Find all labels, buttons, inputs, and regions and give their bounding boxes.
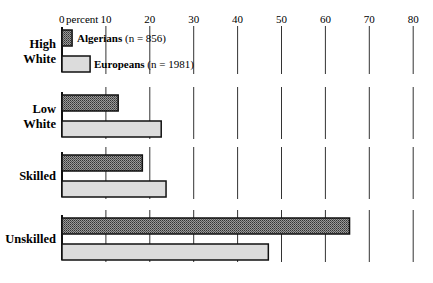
bar-europeans (62, 244, 268, 260)
bar-algerians (62, 155, 142, 171)
x-tick-label: 60 (320, 13, 332, 25)
x-tick-labels: 10203040506070800percent (59, 13, 419, 25)
x-tick-label-zero: 0 (59, 13, 65, 25)
x-tick-label: 40 (232, 13, 244, 25)
bar-chart: 10203040506070800percent HighWhiteLowWhi… (0, 0, 433, 283)
legend: Algerians (n = 856)Europeans (n = 1981) (77, 32, 194, 71)
category-label: Unskilled (5, 232, 56, 246)
x-tick-label: 70 (364, 13, 376, 25)
x-tick-label: 30 (188, 13, 200, 25)
bar-europeans (62, 121, 161, 137)
category-label: Skilled (19, 169, 56, 183)
legend-europeans: Europeans (n = 1981) (94, 58, 194, 71)
bar-europeans (62, 181, 166, 197)
bar-europeans (62, 56, 90, 72)
bar-algerians (62, 218, 350, 234)
x-tick-label: 50 (276, 13, 288, 25)
category-label: High (30, 37, 56, 51)
bar-algerians (62, 95, 118, 111)
category-label: Low (32, 102, 56, 116)
x-tick-label: 20 (144, 13, 156, 25)
x-tick-label: 10 (100, 13, 112, 25)
bar-algerians (62, 30, 72, 46)
category-labels: HighWhiteLowWhiteSkilledUnskilled (5, 37, 56, 247)
legend-algerians: Algerians (n = 856) (77, 32, 166, 45)
category-label: White (23, 52, 56, 66)
category-label: White (23, 117, 56, 131)
x-axis-unit-label: percent (66, 13, 98, 25)
x-tick-label: 80 (408, 13, 420, 25)
